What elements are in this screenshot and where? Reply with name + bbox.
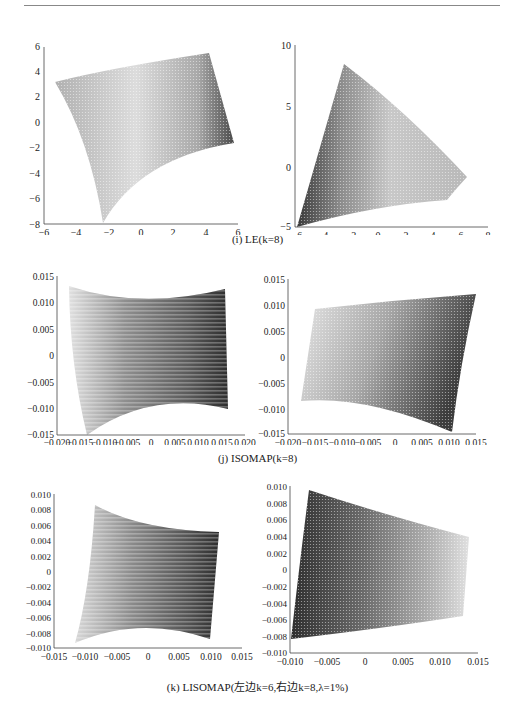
plot-i-left: 6 4 2 0 −2 −4 −6 −8 −6 −4 −2 0 2 4 6 — [0, 30, 258, 235]
xtick-label: 0.010 — [438, 438, 460, 445]
ytick-label: 0.005 — [33, 325, 55, 335]
ytick-label: 5 — [286, 101, 291, 112]
ytick-label: 6 — [35, 41, 40, 52]
plot-j-left: 0.015 0.010 0.005 0 −0.005 −0.010 −0.015… — [0, 265, 258, 445]
xtick-label: 0.005 — [168, 652, 190, 662]
scatter-plot-lisomap-right: 0.010 0.008 0.006 0.004 0.002 0 −0.002 −… — [255, 480, 513, 670]
xtick-label: −0.015 — [67, 438, 94, 445]
ytick-label: −4 — [29, 168, 40, 179]
ytick-label: 0.015 — [33, 272, 55, 282]
ytick-label: −0.002 — [26, 582, 51, 592]
xtick-label: 0.010 — [200, 652, 222, 662]
ytick-label: 0.005 — [264, 327, 286, 337]
ytick-label: 0 — [280, 353, 285, 363]
xtick-label: 0 — [393, 438, 398, 445]
xtick-label: −0.005 — [114, 438, 141, 445]
plot-k-left: 0.010 0.008 0.006 0.004 0.002 0 −0.002 −… — [0, 480, 258, 670]
ytick-label: 0.006 — [267, 515, 288, 525]
xtick-label: −0.010 — [277, 657, 304, 667]
xtick-label: 0.010 — [187, 438, 209, 445]
ytick-label: −0.008 — [26, 629, 52, 639]
caption-k: (k) LISOMAP(左边k=6,右边k=8,λ=1%) — [0, 678, 515, 694]
scatter-plot-lisomap-left: 0.010 0.008 0.006 0.004 0.002 0 −0.002 −… — [0, 480, 258, 670]
ytick-label: −0.005 — [27, 378, 54, 388]
ytick-label: 4 — [35, 66, 40, 77]
ytick-label: −5 — [280, 221, 291, 232]
xtick-label: −0.015 — [41, 652, 68, 662]
ytick-label: 0.008 — [267, 499, 288, 509]
xtick-label: 0.015 — [465, 438, 487, 445]
xtick-label: 0.005 — [164, 438, 186, 445]
ytick-label: −2 — [29, 142, 40, 153]
ytick-label: 0.002 — [31, 552, 51, 562]
ytick-label: 0.010 — [264, 301, 286, 311]
ytick-label: −6 — [29, 193, 40, 204]
ytick-label: 0.008 — [31, 505, 52, 515]
xtick-label: 0.015 — [211, 438, 233, 445]
caption-i: (i) LE(k=8) — [0, 233, 515, 245]
scatter-plot-isomap-left: 0.015 0.010 0.005 0 −0.005 −0.010 −0.015… — [0, 265, 258, 445]
ytick-label: 10 — [281, 40, 291, 51]
ytick-label: −0.004 — [262, 599, 288, 609]
ytick-label: −0.006 — [262, 615, 288, 625]
scatter-plot-le-right: 10 5 0 −5 −6 −4 −2 0 2 4 6 8 — [255, 30, 513, 235]
ytick-label: 0 — [286, 162, 291, 173]
ytick-label: 0.010 — [33, 298, 55, 308]
xtick-label: 0.020 — [234, 438, 256, 445]
xtick-label: −0.010 — [72, 652, 99, 662]
ytick-label: −0.005 — [258, 379, 285, 389]
xtick-label: −0.010 — [329, 438, 356, 445]
xtick-label: −0.005 — [104, 652, 131, 662]
xtick-label: 0.005 — [411, 438, 433, 445]
xtick-label: 0 — [149, 438, 154, 445]
ytick-label: 0.010 — [267, 482, 288, 492]
ytick-label: 0 — [47, 567, 52, 577]
plot-i-right: 10 5 0 −5 −6 −4 −2 0 2 4 6 8 — [255, 30, 513, 235]
ytick-label: −0.004 — [26, 598, 52, 608]
xtick-label: −0.020 — [275, 438, 302, 445]
ytick-label: 0.010 — [31, 490, 52, 500]
caption-j: (j) ISOMAP(k=8) — [0, 452, 515, 464]
ytick-label: 0 — [49, 351, 54, 361]
ytick-label: 0.004 — [267, 532, 288, 542]
ytick-label: 0 — [35, 117, 40, 128]
xtick-label: 0.015 — [467, 657, 489, 667]
ytick-label: 0.004 — [31, 536, 52, 546]
page-header-rule — [24, 5, 500, 6]
xtick-label: 0 — [363, 657, 368, 667]
ytick-label: −0.010 — [258, 405, 285, 415]
ytick-label: 0.006 — [31, 521, 52, 531]
ytick-label: 2 — [35, 91, 40, 102]
ytick-label: −0.002 — [262, 582, 287, 592]
ytick-label: 0 — [283, 565, 288, 575]
xtick-label: 0.005 — [392, 657, 414, 667]
xtick-label: 0.010 — [429, 657, 451, 667]
ytick-label: −0.006 — [26, 613, 52, 623]
xtick-label: 0 — [146, 652, 151, 662]
scatter-plot-le-left: 6 4 2 0 −2 −4 −6 −8 −6 −4 −2 0 2 4 6 — [0, 30, 258, 235]
ytick-label: 0.002 — [267, 549, 287, 559]
ytick-label: −0.008 — [262, 632, 288, 642]
scatter-plot-isomap-right: 0.015 0.010 0.005 0 −0.005 −0.010 −0.015… — [255, 265, 513, 445]
xtick-label: −0.005 — [355, 438, 382, 445]
ytick-label: 0.015 — [264, 275, 286, 285]
xtick-label: −0.005 — [314, 657, 341, 667]
xtick-label: 0.015 — [231, 652, 253, 662]
plot-j-right: 0.015 0.010 0.005 0 −0.005 −0.010 −0.015… — [255, 265, 513, 445]
xtick-label: −0.015 — [302, 438, 329, 445]
ytick-label: −0.010 — [27, 404, 54, 414]
plot-k-right: 0.010 0.008 0.006 0.004 0.002 0 −0.002 −… — [255, 480, 513, 670]
